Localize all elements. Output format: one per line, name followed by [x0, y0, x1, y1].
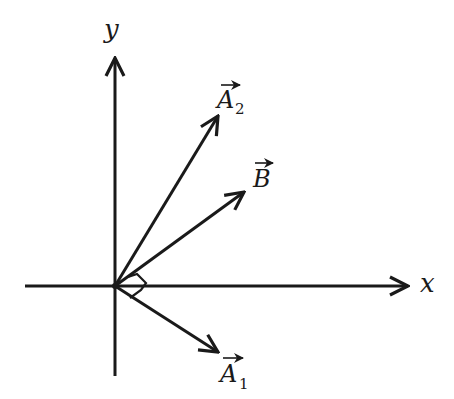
vector-b	[115, 192, 244, 286]
label-a2-sub: 2	[235, 100, 245, 118]
label-a1-sub: 1	[239, 375, 249, 393]
label-a1-main: A	[218, 360, 237, 388]
x-axis-label: x	[420, 268, 435, 298]
label-b-main: B	[252, 165, 271, 193]
y-axis-label: y	[103, 14, 119, 44]
vector-a1	[115, 286, 218, 352]
label-b: B	[252, 163, 273, 193]
vector-diagram: y x A 2 B A 1	[0, 0, 454, 399]
vector-a2	[115, 116, 218, 286]
label-a1: A 1	[218, 358, 249, 393]
label-a2-main: A	[215, 86, 234, 114]
label-a2: A 2	[215, 85, 245, 118]
origin-point	[112, 283, 118, 289]
